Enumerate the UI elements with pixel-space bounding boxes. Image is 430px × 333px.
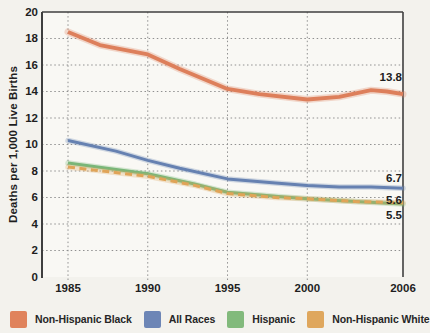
legend-item-1: All Races [144, 311, 215, 328]
chart-legend: Non-Hispanic BlackAll RacesHispanicNon-H… [10, 309, 418, 329]
y-tick-label: 14 [8, 85, 38, 98]
y-tick-label: 0 [8, 271, 38, 284]
y-tick-label: 10 [8, 138, 38, 151]
series-end-label-1: 6.7 [368, 172, 402, 185]
legend-item-0: Non-Hispanic Black [10, 311, 132, 328]
legend-label: Non-Hispanic White [332, 313, 429, 325]
legend-label: Hispanic [252, 313, 295, 325]
y-tick-label: 16 [8, 59, 38, 72]
x-tick-label: 1990 [126, 282, 170, 295]
legend-swatch-icon [10, 311, 27, 328]
legend-item-3: Non-Hispanic White [307, 311, 429, 328]
y-tick-label: 6 [8, 191, 38, 204]
y-tick-label: 20 [8, 6, 38, 19]
x-tick-label: 2006 [381, 282, 425, 295]
legend-label: Non-Hispanic Black [35, 313, 132, 325]
series-end-label-0: 13.8 [368, 71, 402, 84]
legend-swatch-icon [144, 311, 161, 328]
y-tick-label: 12 [8, 112, 38, 125]
x-tick-label: 1995 [206, 282, 250, 295]
legend-item-2: Hispanic [227, 311, 295, 328]
y-tick-label: 4 [8, 218, 38, 231]
series-end-label-3: 5.6 [368, 194, 402, 207]
y-tick-label: 18 [8, 32, 38, 45]
legend-swatch-icon [307, 311, 324, 328]
x-tick-label: 2000 [285, 282, 329, 295]
y-tick-label: 2 [8, 244, 38, 257]
legend-label: All Races [169, 313, 215, 325]
series-end-label-2: 5.5 [368, 209, 402, 222]
x-tick-label: 1985 [46, 282, 90, 295]
legend-swatch-icon [227, 311, 244, 328]
y-tick-label: 8 [8, 165, 38, 178]
